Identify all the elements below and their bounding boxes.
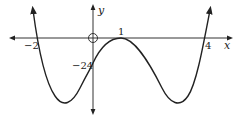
function-graph: −2 1 4 x y −24 [0, 0, 239, 118]
x-axis-label: x [224, 39, 231, 52]
x-tick-1: 1 [118, 26, 124, 37]
y-axis-label: y [97, 4, 105, 17]
x-tick-4: 4 [205, 40, 211, 51]
x-tick-neg2: −2 [24, 40, 39, 51]
function-curve [33, 10, 210, 103]
y-tick-neg24: −24 [72, 60, 93, 71]
